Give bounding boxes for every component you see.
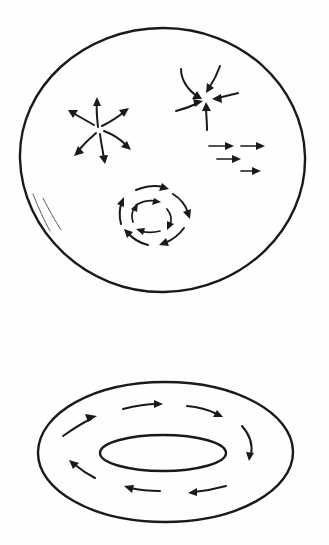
singularity-vortex <box>117 183 191 246</box>
torus-outer-outline <box>38 382 293 522</box>
sphere-outline <box>20 28 305 292</box>
sphere-vector-field-figure <box>0 0 329 310</box>
singularity-source <box>68 97 131 164</box>
torus-flow-arrows <box>63 400 254 496</box>
diagram-page: Vector fields on a sphere and on a torus… <box>0 0 329 545</box>
uniform-flow-arrows <box>209 142 265 175</box>
shading-hatch-marks <box>33 194 61 231</box>
torus-vector-field-figure <box>0 365 329 545</box>
torus-inner-hole-outline <box>100 435 226 471</box>
singularity-sink <box>176 66 238 130</box>
